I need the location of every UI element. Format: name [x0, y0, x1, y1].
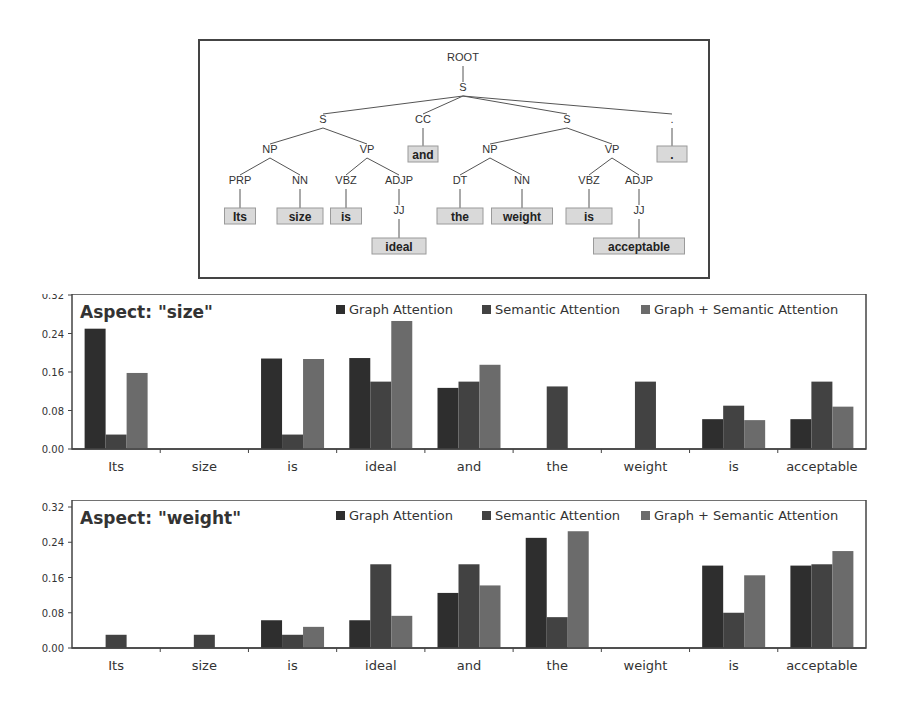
token-label: acceptable [608, 240, 670, 254]
tree-edge [490, 128, 567, 144]
bar-semantic-attention [811, 382, 832, 449]
legend-swatch [641, 305, 650, 314]
tree-edge [346, 158, 367, 175]
bar-graph-semantic-attention [127, 373, 148, 449]
bar-graph-semantic-attention [480, 585, 501, 648]
bar-semantic-attention [106, 435, 127, 449]
bar-semantic-attention [723, 613, 744, 648]
legend-swatch [482, 305, 491, 314]
tree-edge [589, 158, 612, 175]
bar-graph-semantic-attention [744, 420, 765, 449]
tree-edge [460, 158, 490, 175]
tree-edge [463, 96, 567, 114]
tree-edge [463, 96, 672, 114]
tree-node-label: ADJP [625, 174, 653, 186]
y-tick-label: 0.00 [42, 444, 64, 455]
bar-graph-attention [261, 620, 282, 648]
tree-node-label: NN [292, 174, 308, 186]
x-tick-label: ideal [365, 459, 396, 474]
bar-semantic-attention [547, 386, 568, 449]
x-tick-label: is [728, 459, 739, 474]
size-aspect-chart: 0.000.080.160.240.32Itssizeisidealandthe… [0, 294, 904, 474]
tree-node-label: CC [415, 113, 431, 125]
chart-title: Aspect: "weight" [80, 508, 241, 528]
chart-title: Aspect: "size" [80, 302, 213, 322]
x-tick-label: Its [108, 459, 124, 474]
y-tick-label: 0.08 [42, 406, 64, 417]
bar-graph-attention [85, 329, 106, 449]
y-tick-label: 0.16 [42, 367, 64, 378]
token-label: is [341, 210, 351, 224]
y-tick-label: 0.00 [42, 643, 64, 654]
weight-aspect-chart: 0.000.080.160.240.32Itssizeisidealandthe… [0, 500, 904, 680]
legend-label: Graph Attention [349, 302, 453, 317]
bar-semantic-attention [811, 564, 832, 648]
bar-graph-attention [438, 593, 459, 648]
legend-label: Semantic Attention [495, 302, 620, 317]
x-tick-label: weight [624, 658, 668, 673]
legend-label: Graph + Semantic Attention [654, 508, 838, 523]
token-label: and [412, 148, 433, 162]
x-tick-label: is [287, 658, 298, 673]
tree-node-label: VBZ [335, 174, 357, 186]
tree-node-label: . [670, 113, 673, 125]
bar-graph-semantic-attention [744, 575, 765, 648]
y-tick-label: 0.16 [42, 573, 64, 584]
bar-semantic-attention [635, 382, 656, 449]
x-tick-label: the [547, 459, 568, 474]
y-tick-label: 0.32 [42, 294, 64, 301]
tree-node-label: S [563, 113, 570, 125]
bar-chart-svg: 0.000.080.160.240.32Itssizeisidealandthe… [0, 500, 904, 680]
tree-node-label: PRP [229, 174, 252, 186]
bar-graph-attention [702, 566, 723, 648]
bar-graph-attention [702, 419, 723, 449]
legend-label: Semantic Attention [495, 508, 620, 523]
legend-label: Graph Attention [349, 508, 453, 523]
tree-edge [270, 128, 323, 144]
x-tick-label: is [728, 658, 739, 673]
bar-semantic-attention [459, 564, 480, 648]
tree-node-label: S [459, 81, 466, 93]
tree-edge [567, 128, 612, 144]
tree-node-label: ADJP [385, 174, 413, 186]
tree-node-label: ROOT [447, 51, 479, 63]
legend-swatch [641, 511, 650, 520]
bar-graph-semantic-attention [391, 321, 412, 449]
bar-graph-semantic-attention [480, 365, 501, 449]
bar-semantic-attention [723, 406, 744, 449]
x-tick-label: size [192, 658, 217, 673]
token-label: weight [502, 210, 541, 224]
bar-semantic-attention [106, 635, 127, 648]
bar-graph-semantic-attention [391, 616, 412, 648]
x-tick-label: acceptable [786, 459, 857, 474]
tree-node-label: VP [360, 143, 375, 155]
token-label: ideal [385, 240, 412, 254]
bar-semantic-attention [194, 635, 215, 648]
tree-edge [323, 128, 367, 144]
token-label: size [289, 210, 312, 224]
tree-edge [240, 158, 270, 175]
bar-semantic-attention [370, 382, 391, 449]
bar-semantic-attention [282, 635, 303, 648]
x-tick-label: weight [624, 459, 668, 474]
bar-semantic-attention [459, 382, 480, 449]
token-label: . [670, 148, 673, 162]
x-tick-label: and [457, 658, 481, 673]
token-label: Its [233, 210, 247, 224]
tree-node-label: JJ [634, 204, 645, 216]
bar-graph-attention [790, 566, 811, 648]
bar-graph-attention [526, 538, 547, 648]
bar-graph-attention [790, 419, 811, 449]
bar-semantic-attention [370, 564, 391, 648]
tree-node-label: DT [453, 174, 468, 186]
y-tick-label: 0.32 [42, 502, 64, 513]
token-label: is [584, 210, 594, 224]
constituency-parse-tree: ROOTSSCCS.NPVPNPVPPRPNNVBZADJPDTNNVBZADJ… [200, 41, 712, 281]
tree-node-label: VBZ [578, 174, 600, 186]
x-tick-label: acceptable [786, 658, 857, 673]
bar-graph-semantic-attention [568, 531, 589, 648]
y-tick-label: 0.08 [42, 608, 64, 619]
bar-graph-attention [261, 359, 282, 449]
tree-edge [490, 158, 522, 175]
tree-edge [367, 158, 399, 175]
